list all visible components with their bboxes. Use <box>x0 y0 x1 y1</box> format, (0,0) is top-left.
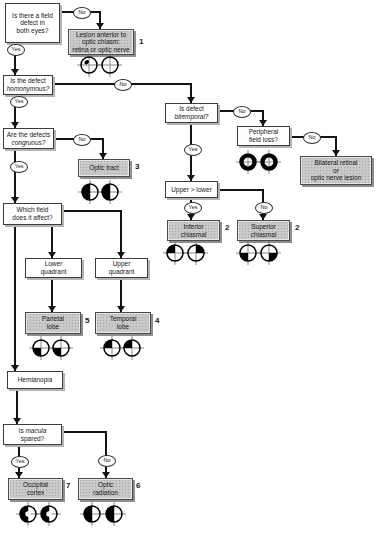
question-text: quadrant <box>41 268 67 276</box>
question-congruous: Are the defects congruous? <box>3 128 54 149</box>
no-label: No <box>233 106 251 118</box>
diagnosis-number: 1 <box>139 37 143 46</box>
diagnosis-number: 4 <box>155 316 159 325</box>
connector <box>62 210 122 212</box>
question-text: Which field <box>17 206 49 214</box>
visual-field-icon-normal <box>97 52 123 78</box>
diagnosis-number: 2 <box>225 223 229 232</box>
diagnosis-text: lobe <box>117 323 129 331</box>
no-label: No <box>255 202 273 214</box>
question-lower-quadrant: Lower quadrant <box>25 258 82 278</box>
no-label: No <box>73 7 91 19</box>
diagnosis-text: lobe <box>47 323 59 331</box>
question-text: Upper > lower <box>171 186 212 194</box>
visual-field-icon-lower-left-quadrant <box>48 335 74 361</box>
diagnosis-temporal-lobe: Temporal lobe <box>95 312 151 334</box>
diagnosis-number: 3 <box>135 162 139 171</box>
connector <box>120 210 122 258</box>
question-text: Upper <box>113 260 131 268</box>
diagnosis-optic-tract: Optic tract <box>78 159 130 177</box>
no-label: No <box>114 79 132 91</box>
question-text: spared? <box>21 435 45 443</box>
yes-label: Yes <box>11 456 29 468</box>
question-text: field loss? <box>249 136 278 144</box>
question-bitemporal: Is defect bitemporal? <box>165 103 218 123</box>
no-label: No <box>303 132 321 144</box>
yes-label: Yes <box>7 44 25 56</box>
diagnosis-text: optic nerve lesion <box>311 174 362 182</box>
node-text: Hemianopia <box>18 376 53 384</box>
diagnosis-text: Occipital <box>23 481 48 489</box>
diagnosis-number: 5 <box>85 316 89 325</box>
diagnosis-bilateral-retinal: Bilateral retinal or optic nerve lesion <box>300 156 372 185</box>
yes-label: Yes <box>184 202 202 214</box>
question-which-field: Which field does it affect? <box>3 203 62 225</box>
question-text: Is defect <box>179 105 204 113</box>
diagnosis-text: or <box>333 167 339 175</box>
question-text: both eyes? <box>17 27 49 35</box>
diagnosis-text: Temporal <box>110 315 137 323</box>
question-text: defect in <box>20 19 45 27</box>
question-text: homonymous? <box>7 85 50 93</box>
question-text: Is macula <box>19 427 47 435</box>
diagnosis-optic-radiation: Optic radiation <box>78 478 133 500</box>
diagnosis-occipital-cortex: Occipital cortex <box>8 478 63 500</box>
question-macula-spared: Is macula spared? <box>3 424 62 445</box>
question-text: quadrant <box>109 268 135 276</box>
visual-field-icon-upper-left-quadrant <box>119 335 145 361</box>
diagnosis-text: radiation <box>93 489 118 497</box>
node-hemianopia: Hemianopia <box>7 371 63 389</box>
question-text: Are the defects <box>7 131 51 139</box>
visual-field-icon-left-hemianopia <box>97 179 123 205</box>
diagnosis-text: chiasmal <box>251 231 277 239</box>
question-text: congruous? <box>12 139 46 147</box>
connector <box>14 225 16 371</box>
question-text: bitemporal? <box>175 113 209 121</box>
no-label: No <box>73 134 91 146</box>
diagnosis-inferior-chiasmal: Inferior chiasmal <box>167 220 220 241</box>
connector <box>14 149 16 203</box>
diagnosis-number: 7 <box>66 481 70 490</box>
yes-label: Yes <box>10 161 28 173</box>
diagnosis-number: 2 <box>295 223 299 232</box>
diagnosis-text: Parietal <box>42 315 64 323</box>
visual-field-icon-left-hemianopia <box>101 501 127 527</box>
diagnosis-text: Optic tract <box>89 164 119 172</box>
question-text: Peripheral <box>249 128 279 136</box>
question-upper-quadrant: Upper quadrant <box>95 258 148 278</box>
visual-field-icon-peripheral-constriction <box>256 149 282 175</box>
diagnosis-text: optic chiasm: <box>82 38 120 46</box>
diagnosis-text: cortex <box>27 489 45 497</box>
visual-field-icon-lower-right-quadrant <box>256 240 282 266</box>
diagnosis-text: Optic <box>98 481 113 489</box>
diagnosis-text: chiasmal <box>181 231 207 239</box>
visual-field-icon-macular-sparing <box>36 501 62 527</box>
flowchart-canvas: Is there a field defect in both eyes? Is… <box>0 0 376 533</box>
question-text: Is there a field <box>12 12 53 20</box>
yes-label: Yes <box>184 144 202 156</box>
diagnosis-text: Bilateral retinal <box>315 159 358 167</box>
diagnosis-text: Superior <box>251 223 276 231</box>
question-text: does it affect? <box>12 214 52 222</box>
question-upper-greater-lower: Upper > lower <box>165 181 218 198</box>
visual-field-icon-upper-right-quadrant <box>183 240 209 266</box>
diagnosis-text: Lesion anterior to <box>76 31 126 39</box>
question-both-eyes: Is there a field defect in both eyes? <box>5 3 60 43</box>
diagnosis-parietal-lobe: Parietal lobe <box>25 312 81 334</box>
question-homonymous: Is the defect homonymous? <box>3 75 53 95</box>
question-peripheral-loss: Peripheral field loss? <box>237 126 290 146</box>
diagnosis-number: 6 <box>136 481 140 490</box>
diagnosis-superior-chiasmal: Superior chiasmal <box>237 220 290 241</box>
question-text: Is the defect <box>10 77 45 85</box>
diagnosis-text: Inferior <box>183 223 203 231</box>
connector <box>62 431 107 433</box>
connector <box>218 189 264 191</box>
no-label: No <box>98 455 116 467</box>
question-text: Lower <box>45 260 63 268</box>
yes-label: Yes <box>10 96 28 108</box>
